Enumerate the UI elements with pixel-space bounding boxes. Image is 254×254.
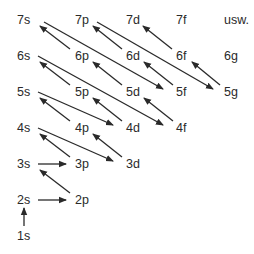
- arrow-icon-6f-to-7d: [143, 26, 172, 49]
- orbital-label-7s: 7s: [17, 14, 30, 27]
- orbital-label-6f: 6f: [176, 50, 186, 63]
- orbital-label-5s: 5s: [17, 86, 30, 99]
- arrow-icon-5d-to-6p: [93, 62, 122, 85]
- orbital-label-usw: usw.: [224, 14, 249, 27]
- arrow-icon-5f-to-6d: [144, 62, 173, 85]
- filling-order-arrows: [24, 22, 220, 226]
- arrow-icon-4p-to-5s: [40, 98, 70, 121]
- orbital-label-5f: 5f: [176, 86, 186, 99]
- orbital-label-5d: 5d: [126, 86, 140, 99]
- orbital-label-6p: 6p: [75, 50, 89, 63]
- orbital-label-1s: 1s: [17, 230, 30, 243]
- arrow-icon-6d-to-7p: [93, 26, 122, 49]
- orbital-label-3p: 3p: [75, 158, 89, 171]
- arrow-icon-6p-to-7s: [40, 26, 70, 49]
- orbital-label-6g: 6g: [224, 50, 238, 63]
- arrow-icon-6s-to-4f: [38, 56, 163, 125]
- orbital-label-7d: 7d: [126, 14, 140, 27]
- orbital-label-7p: 7p: [75, 14, 89, 27]
- orbital-label-4f: 4f: [176, 122, 186, 135]
- arrow-icon-3p-to-4s: [40, 134, 70, 157]
- orbital-label-3s: 3s: [17, 158, 30, 171]
- orbital-label-2p: 2p: [75, 194, 89, 207]
- orbital-label-4p: 4p: [75, 122, 89, 135]
- orbital-label-5g: 5g: [224, 86, 238, 99]
- arrow-icon-2p-to-3s: [40, 170, 70, 193]
- orbital-label-7f: 7f: [176, 14, 186, 27]
- orbital-label-6d: 6d: [126, 50, 140, 63]
- orbital-label-4s: 4s: [17, 122, 30, 135]
- orbital-label-2s: 2s: [17, 194, 30, 207]
- orbital-label-4d: 4d: [126, 122, 140, 135]
- orbital-label-5p: 5p: [75, 86, 89, 99]
- orbital-label-6s: 6s: [17, 50, 30, 63]
- arrow-icon-5g-to-6f: [192, 62, 220, 85]
- orbital-label-3d: 3d: [126, 158, 140, 171]
